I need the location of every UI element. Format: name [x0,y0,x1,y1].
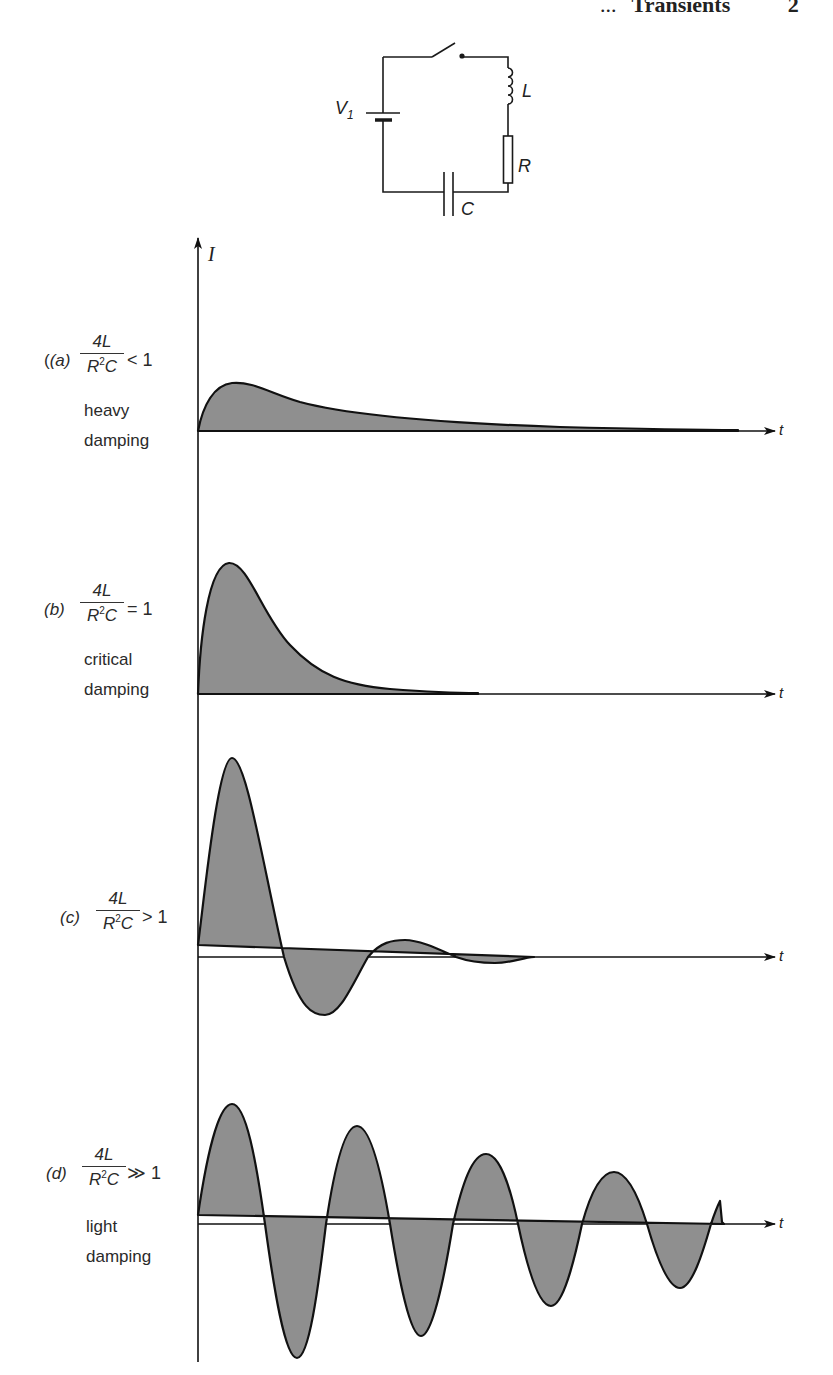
wire-top-right [462,57,508,68]
case-b-caption: critical damping [84,645,149,705]
ratio-numerator: 4L [96,890,140,911]
ratio-denominator: R2C [82,1167,126,1188]
x-axis-label-c: t [779,947,783,964]
case-c-relation: > 1 [142,908,168,926]
caption-line: damping [84,675,149,705]
x-axis-label-d: t [779,1214,783,1231]
curve-light-damping [198,1104,724,1358]
resistor-icon [504,136,513,183]
case-b-relation: = 1 [127,600,153,618]
capacitor-icon [444,172,453,216]
caption-line: damping [86,1242,151,1272]
case-a-ratio: 4L R2C [80,333,124,375]
caption-line: light [86,1212,151,1242]
case-d-id: (d) [46,1165,67,1182]
case-b-ratio: 4L R2C [80,582,124,624]
battery-icon [366,57,400,120]
case-b-letter: (b) [44,600,65,619]
case-a-relation: < 1 [127,351,153,369]
y-axis-label: I [208,243,215,266]
ratio-numerator: 4L [80,582,124,603]
wire-bottom-left [383,120,444,192]
ratio-numerator: 4L [80,333,124,354]
curve-critical-damping [198,563,478,694]
curve-heavy-damping [198,383,738,431]
case-c-letter: (c) [60,908,80,927]
ratio-numerator: 4L [82,1146,126,1167]
ratio-denominator: R2C [80,354,124,375]
caption-line: heavy [84,396,149,426]
case-d-relation: ≫ 1 [127,1164,161,1182]
inductor-label: L [522,81,532,102]
case-d-caption: light damping [86,1212,151,1272]
ratio-denominator: R2C [80,603,124,624]
curve-underdamped [198,758,534,1015]
caption-line: critical [84,645,149,675]
inductor-icon [508,68,513,136]
case-a-letter: (a) [50,351,71,370]
case-d-ratio: 4L R2C [82,1146,126,1188]
case-a-caption: heavy damping [84,396,149,456]
wire-bottom-right [453,183,508,192]
switch-icon [432,43,455,57]
voltage-subscript: 1 [347,108,354,122]
rlc-circuit [366,43,513,216]
case-b-id: (b) [44,601,65,618]
case-d-letter: (d) [46,1164,67,1183]
capacitor-label: C [461,199,474,220]
case-c-ratio: 4L R2C [96,890,140,932]
caption-line: damping [84,426,149,456]
x-axis-label-b: t [779,684,783,701]
voltage-label: V1 [335,98,354,122]
ratio-denominator: R2C [96,911,140,932]
case-c-id: (c) [60,909,80,926]
resistor-label: R [518,156,531,177]
case-a-id: ((a) [44,352,70,369]
x-axis-label-a: t [779,421,783,438]
voltage-symbol: V [335,98,347,118]
